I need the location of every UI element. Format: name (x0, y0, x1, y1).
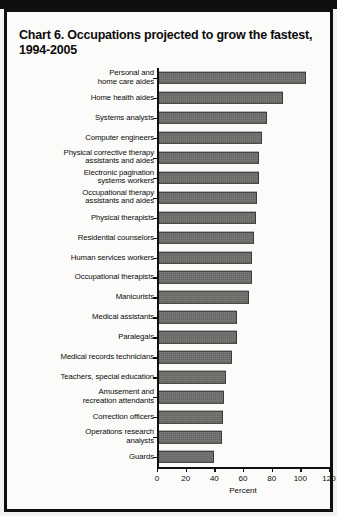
x-axis-tick (329, 467, 330, 472)
category-label-line: systems workers (14, 178, 154, 187)
y-axis-tick (153, 98, 158, 99)
category-label: Electronic paginationsystems workers (14, 169, 154, 186)
x-axis-tick-label: 20 (181, 474, 190, 483)
chart-page: Chart 6. Occupations projected to grow t… (0, 0, 337, 516)
x-axis-tick-label: 40 (210, 474, 219, 483)
bar (157, 72, 306, 84)
category-label-line: Manicurists (14, 293, 154, 302)
x-axis-tick (157, 467, 158, 472)
category-label: Computer engineers (14, 134, 154, 143)
category-label: Teachers, special education (14, 373, 154, 382)
chart-frame: Chart 6. Occupations projected to grow t… (4, 9, 333, 512)
category-label: Occupational therapyassistants and aides (14, 189, 154, 206)
category-label: Manicurists (14, 293, 154, 302)
bar (157, 331, 237, 343)
category-label-line: analysts (14, 437, 154, 446)
y-axis-tick (153, 457, 158, 458)
y-axis-tick (153, 437, 158, 438)
category-label: Occupational therapists (14, 273, 154, 282)
bar (157, 351, 232, 363)
y-axis-tick (153, 138, 158, 139)
x-axis-title: Percent (157, 486, 329, 495)
category-label-line: assistants and aides (14, 158, 154, 167)
x-axis-tick-label: 60 (239, 474, 248, 483)
category-label: Guards (14, 453, 154, 462)
y-axis-tick (153, 178, 158, 179)
x-axis-tick (272, 467, 273, 472)
bar (157, 311, 237, 323)
category-label: Medical assistants (14, 313, 154, 322)
x-axis-tick-label: 80 (267, 474, 276, 483)
plot-area: Personal andhome care aidesHome health a… (15, 68, 335, 468)
y-axis-tick (153, 297, 158, 298)
y-axis-tick (153, 417, 158, 418)
y-axis-tick (153, 198, 158, 199)
chart-title: Chart 6. Occupations projected to grow t… (19, 28, 319, 58)
x-axis-tick-label: 100 (294, 474, 307, 483)
category-labels: Personal andhome care aidesHome health a… (15, 68, 157, 467)
x-axis-tick (243, 467, 244, 472)
category-label: Operations researchanalysts (14, 428, 154, 445)
y-axis-tick (153, 118, 158, 119)
y-axis-tick (153, 317, 158, 318)
bar (157, 92, 283, 104)
category-label-line: Occupational therapists (14, 273, 154, 282)
category-label-line: Teachers, special education (14, 373, 154, 382)
category-label: Paralegals (14, 333, 154, 342)
y-axis-tick (153, 238, 158, 239)
category-label: Correction officers (14, 413, 154, 422)
bar (157, 431, 222, 443)
category-label-line: Human services workers (14, 253, 154, 262)
x-axis-tick-label: 0 (155, 474, 159, 483)
scan-top-band (0, 0, 337, 9)
category-label-line: Correction officers (14, 413, 154, 422)
x-axis-tick (214, 467, 215, 472)
x-axis-tick (186, 467, 187, 472)
bar (157, 231, 254, 243)
y-axis-tick (153, 218, 158, 219)
bar (157, 411, 223, 423)
bar (157, 251, 252, 263)
y-axis-tick (153, 397, 158, 398)
category-label-line: Computer engineers (14, 134, 154, 143)
bar (157, 191, 257, 203)
category-label: Human services workers (14, 253, 154, 262)
y-axis-line (157, 68, 159, 467)
category-label-line: recreation attendants (14, 397, 154, 406)
y-axis-tick (153, 158, 158, 159)
category-label-line: Physical therapists (14, 213, 154, 222)
category-label: Medical records technicians (14, 353, 154, 362)
category-label-line: Residential counselors (14, 233, 154, 242)
category-label-line: Medical assistants (14, 313, 154, 322)
bar (157, 152, 259, 164)
category-label: Home health aides (14, 94, 154, 103)
bar (157, 451, 214, 463)
y-axis-tick (153, 277, 158, 278)
y-axis-tick (153, 357, 158, 358)
y-axis-tick (153, 78, 158, 79)
bar (157, 291, 249, 303)
bar-series (157, 68, 329, 467)
bar (157, 371, 226, 383)
y-axis-tick (153, 337, 158, 338)
category-label-line: Home health aides (14, 94, 154, 103)
category-label: Physical corrective therapyassistants an… (14, 149, 154, 166)
category-label-line: Guards (14, 453, 154, 462)
category-label: Systems analysts (14, 114, 154, 123)
category-label: Amusement andrecreation attendants (14, 389, 154, 406)
category-label-line: home care aides (14, 78, 154, 87)
category-label-line: Paralegals (14, 333, 154, 342)
category-label: Physical therapists (14, 213, 154, 222)
bar (157, 391, 224, 403)
category-label: Residential counselors (14, 233, 154, 242)
category-label-line: assistants and aides (14, 198, 154, 207)
bar (157, 132, 262, 144)
bar (157, 172, 259, 184)
y-axis-tick (153, 377, 158, 378)
x-axis-tick (300, 467, 301, 472)
y-axis-tick (153, 258, 158, 259)
category-label: Personal andhome care aides (14, 69, 154, 86)
x-axis-tick-label: 120 (322, 474, 335, 483)
category-label-line: Medical records technicians (14, 353, 154, 362)
category-label-line: Systems analysts (14, 114, 154, 123)
